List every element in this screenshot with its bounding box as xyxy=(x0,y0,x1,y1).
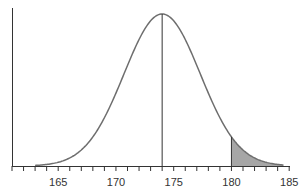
tick-label-170: 170 xyxy=(107,176,125,188)
tick-label-165: 165 xyxy=(49,176,67,188)
normal-distribution-chart: 165 170 175 180 185 xyxy=(0,0,308,196)
x-axis-tick-labels: 165 170 175 180 185 xyxy=(49,176,298,188)
tick-label-180: 180 xyxy=(222,176,240,188)
tick-label-185: 185 xyxy=(280,176,298,188)
shaded-tail-area xyxy=(231,137,283,166)
tick-label-175: 175 xyxy=(165,176,183,188)
normal-curve xyxy=(35,14,283,165)
